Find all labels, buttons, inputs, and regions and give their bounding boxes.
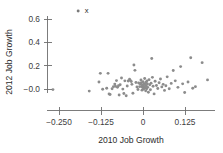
data-point	[150, 57, 153, 60]
data-point	[154, 80, 157, 83]
data-point	[168, 87, 171, 90]
data-point	[194, 85, 197, 88]
x-axis-title: 2010 Job Growth	[98, 135, 164, 145]
data-point	[174, 79, 177, 82]
data-point	[148, 78, 151, 81]
y-axis-title: 2012 Job Growth	[4, 29, 14, 95]
data-point	[143, 77, 146, 80]
data-point	[131, 92, 134, 95]
data-point	[147, 91, 150, 94]
data-point	[163, 89, 166, 92]
plot-canvas: −0.250−0.12500.125 0.60.40.2−0.0 x 2010 …	[0, 0, 223, 153]
data-point	[107, 72, 110, 75]
data-point	[105, 87, 108, 90]
data-point	[179, 65, 182, 68]
data-point	[155, 84, 158, 87]
data-point	[151, 76, 154, 79]
data-point	[88, 90, 91, 93]
data-point	[132, 64, 135, 67]
data-point	[130, 83, 133, 86]
data-point	[130, 80, 133, 83]
data-point	[149, 88, 152, 91]
data-point	[101, 88, 104, 91]
axes-layer	[47, 16, 215, 111]
data-point	[191, 87, 194, 90]
data-point	[176, 86, 179, 89]
data-point	[166, 75, 169, 78]
data-point	[133, 69, 136, 72]
data-point	[134, 81, 137, 84]
data-point	[160, 85, 163, 88]
data-point-layer	[52, 10, 209, 98]
data-point	[189, 56, 192, 59]
y-axis-tick-label: 0.4	[28, 37, 40, 47]
data-point	[52, 88, 55, 91]
data-point	[181, 82, 184, 85]
data-point	[137, 88, 140, 91]
x-axis-tick-label: −0.125	[88, 117, 114, 127]
x-axis-tick-label: −0.250	[46, 117, 72, 127]
data-point	[153, 92, 156, 95]
data-point	[158, 81, 161, 84]
data-point	[118, 94, 121, 97]
y-axis-tick-label: 0.6	[28, 14, 40, 24]
scatter-plot-figure: −0.250−0.12500.125 0.60.40.2−0.0 x 2010 …	[0, 0, 223, 153]
data-point	[172, 69, 175, 72]
data-point	[119, 83, 122, 86]
data-point	[170, 82, 173, 85]
data-point	[146, 86, 149, 89]
data-point	[120, 77, 123, 80]
data-point	[162, 83, 165, 86]
data-point	[77, 10, 80, 13]
x-axis-tick-label: 0.125	[175, 117, 196, 127]
x-axis-tick-label: 0	[141, 117, 146, 127]
data-point	[156, 87, 159, 90]
data-point	[122, 92, 125, 95]
data-point	[201, 61, 204, 64]
data-point	[123, 79, 126, 82]
data-point	[126, 85, 129, 88]
data-point	[109, 93, 112, 96]
data-point	[150, 82, 153, 85]
data-point	[159, 78, 162, 81]
data-point	[121, 88, 124, 91]
data-point	[136, 85, 139, 88]
data-point	[187, 81, 190, 84]
annotation-layer: x	[85, 6, 89, 15]
data-point	[206, 78, 209, 81]
data-point	[125, 94, 128, 97]
data-point	[164, 84, 167, 87]
y-axis-tick-label: −0.0	[24, 84, 41, 94]
data-point	[99, 72, 102, 75]
data-point	[98, 81, 101, 84]
x-tick-layer: −0.250−0.12500.125	[46, 107, 196, 128]
outlier-annotation-label: x	[85, 6, 89, 15]
data-point	[115, 79, 118, 82]
y-axis-tick-label: 0.2	[28, 61, 40, 71]
data-point	[183, 91, 186, 94]
data-point	[152, 85, 155, 88]
